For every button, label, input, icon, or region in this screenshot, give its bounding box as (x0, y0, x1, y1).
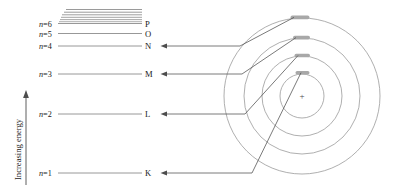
atom-energy-diagram: n=6 n=5 n=4 n=3 n=2 n=1 P O N M L K Incr… (0, 0, 399, 189)
connector-K (165, 73, 301, 173)
energy-axis-caption: Increasing energy (13, 118, 23, 180)
connector-N (165, 17, 294, 46)
electron-marker-K (296, 71, 310, 74)
shell-letter-L: L (145, 109, 150, 119)
shell-letter-O: O (145, 29, 151, 39)
energy-axis-arrowhead (23, 90, 29, 98)
continuum-band (59, 10, 142, 22)
figure-canvas: n=6 n=5 n=4 n=3 n=2 n=1 P O N M L K Incr… (0, 0, 399, 189)
level-label-n1: n=1 (39, 169, 52, 178)
energy-level-lines (58, 24, 142, 174)
shell-letter-P: P (145, 19, 150, 29)
level-label-n5: n=5 (39, 30, 52, 39)
nucleus-plus-icon: + (299, 91, 304, 101)
shell-letter-N: N (145, 41, 152, 51)
connector-arrowhead-N (161, 44, 168, 49)
level-label-n4: n=4 (39, 42, 52, 51)
connector-arrowhead-K (161, 171, 168, 176)
connector-M (165, 38, 296, 74)
shell-letter-M: M (145, 69, 153, 79)
increasing-energy-axis (23, 90, 29, 185)
connector-arrowhead-M (161, 72, 168, 77)
level-label-n3: n=3 (39, 70, 52, 79)
shell-letter-K: K (145, 168, 152, 178)
level-label-n2: n=2 (39, 110, 52, 119)
level-label-n6: n=6 (39, 20, 52, 29)
connector-arrowhead-L (161, 112, 168, 117)
electron-markers (291, 16, 311, 75)
